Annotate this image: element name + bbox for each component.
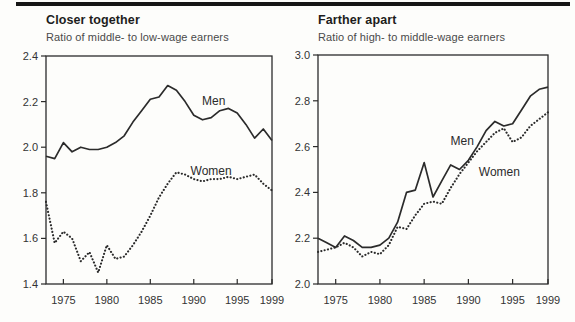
series-label-women: Women bbox=[479, 165, 520, 179]
series-line-women bbox=[318, 112, 548, 256]
x-tick-label: 1990 bbox=[456, 294, 480, 306]
x-tick-label: 1975 bbox=[323, 294, 347, 306]
x-tick-label: 1985 bbox=[412, 294, 436, 306]
y-tick-label: 2.2 bbox=[295, 232, 310, 244]
right-line-chart: 2.02.22.42.62.83.01975198019851990199519… bbox=[0, 0, 575, 322]
y-tick-label: 3.0 bbox=[295, 49, 310, 61]
x-tick-label: 1980 bbox=[368, 294, 392, 306]
y-tick-label: 2.4 bbox=[295, 186, 310, 198]
y-tick-label: 2.8 bbox=[295, 95, 310, 107]
y-tick-label: 2.0 bbox=[295, 278, 310, 290]
x-tick-label: 1999 bbox=[536, 294, 560, 306]
x-tick-label: 1995 bbox=[500, 294, 524, 306]
y-tick-label: 2.6 bbox=[295, 141, 310, 153]
figure-canvas: Closer together Ratio of middle- to low-… bbox=[0, 0, 575, 322]
series-label-men: Men bbox=[451, 134, 474, 148]
